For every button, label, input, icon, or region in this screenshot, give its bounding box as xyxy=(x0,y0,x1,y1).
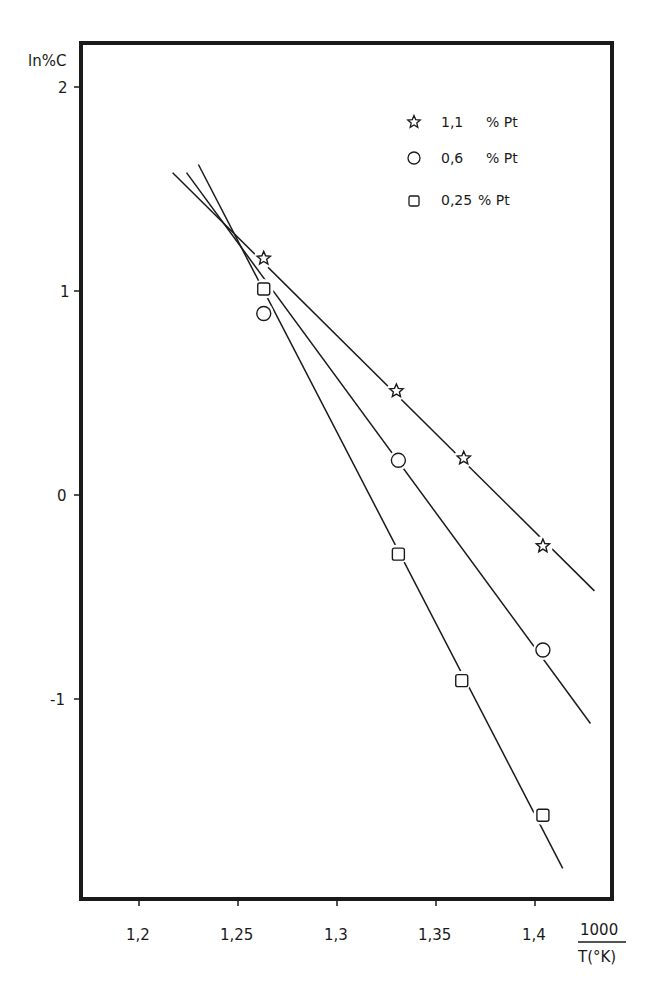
marker-halo xyxy=(533,805,553,825)
x-tick-label: 1,4 xyxy=(522,926,546,944)
y-axis-ticks: 2 1 0 -1 xyxy=(50,79,81,709)
legend-value: 1,1 xyxy=(441,114,463,130)
fit-line-square xyxy=(198,165,562,869)
marker-halo xyxy=(452,671,472,691)
x-tick-label: 1,3 xyxy=(324,926,348,944)
star-icon xyxy=(408,116,420,128)
y-axis-title: ln%C xyxy=(28,52,66,70)
legend-unit: % Pt xyxy=(478,192,510,208)
x-axis-ticks: 1,2 1,25 1,3 1,35 1,4 xyxy=(126,899,546,944)
marker-halo xyxy=(388,544,408,564)
legend-unit: % Pt xyxy=(486,150,518,166)
legend: 1,1 % Pt 0,6 % Pt 0,25 % Pt xyxy=(408,114,518,208)
legend-value: 0,6 xyxy=(441,150,463,166)
fit-lines xyxy=(173,165,595,869)
x-tick-label: 1,2 xyxy=(126,926,150,944)
fit-line-circle xyxy=(187,173,591,724)
square-icon xyxy=(409,196,419,206)
legend-item-star: 1,1 % Pt xyxy=(408,114,518,130)
chart-canvas: ln%C 2 1 0 -1 1,2 1,25 1,3 1,35 1,4 1000… xyxy=(0,0,657,995)
y-tick-label: 1 xyxy=(60,283,70,301)
legend-item-square: 0,25 % Pt xyxy=(409,192,510,208)
y-tick-label: 0 xyxy=(57,487,67,505)
data-markers xyxy=(254,248,553,825)
circle-icon xyxy=(408,152,420,164)
legend-value: 0,25 xyxy=(441,192,472,208)
x-axis-title: 1000 T(°K) xyxy=(577,921,626,966)
legend-unit: % Pt xyxy=(486,114,518,130)
x-tick-label: 1,25 xyxy=(220,926,253,944)
plot-frame xyxy=(81,43,612,899)
y-tick-label: -1 xyxy=(50,691,65,709)
y-tick-label: 2 xyxy=(58,79,68,97)
legend-item-circle: 0,6 % Pt xyxy=(408,150,518,166)
marker-halo xyxy=(254,279,274,299)
x-tick-label: 1,35 xyxy=(418,926,451,944)
x-axis-title-denominator: T(°K) xyxy=(577,948,616,966)
x-axis-title-numerator: 1000 xyxy=(580,921,618,939)
